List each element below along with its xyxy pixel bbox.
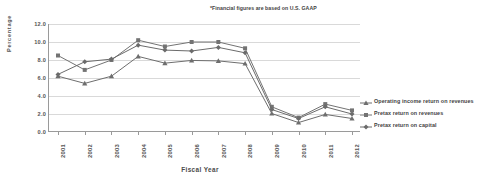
x-axis-tick-label: 2006 [194,144,200,158]
data-point-marker [189,49,194,54]
legend-label: Pretax return on capital [374,122,437,128]
x-axis-tick-label: 2011 [328,144,334,158]
x-axis-tick-labels: 2001200220032004200520062007200820092010… [48,134,360,164]
y-axis-tick-label: 0.0 [2,129,46,135]
x-axis-tick-label: 2003 [114,144,120,158]
x-axis-tick-label: 2004 [141,144,147,158]
x-axis-tick-label: 2010 [301,144,307,158]
x-axis-tick-label: 2005 [167,144,173,158]
data-point-marker [364,124,369,129]
x-axis-tick-label: 2012 [354,144,360,158]
legend-item[interactable]: Pretax return on revenues [360,110,484,119]
x-axis-title: Fiscal Year [0,166,400,173]
legend-item[interactable]: Operating income return on revenues [360,98,484,107]
y-axis-tick-label: 4.0 [2,93,46,99]
x-axis-tick-label: 2001 [60,144,66,158]
y-axis-title: Percentage [6,15,12,52]
legend-marker-icon [360,123,372,131]
data-point-marker [136,38,140,42]
legend-label: Operating income return on revenues [374,98,474,104]
data-point-marker [190,40,194,44]
legend-marker-icon [360,99,372,107]
data-point-marker [364,113,368,117]
x-axis-tick-label: 2007 [221,144,227,158]
y-axis-tick-label: 6.0 [2,75,46,81]
data-point-marker [83,68,87,72]
legend-item[interactable]: Pretax return on capital [360,122,484,131]
data-point-marker [216,45,221,50]
series-plot [48,24,360,132]
data-point-marker [56,72,61,77]
plot-area [48,24,360,132]
data-point-marker [136,54,141,59]
legend-marker-icon [360,111,372,119]
data-point-marker [56,54,60,58]
data-point-marker [136,43,141,48]
data-point-marker [243,46,247,50]
y-axis-tick-label: 2.0 [2,111,46,117]
x-axis-tick-label: 2002 [87,144,93,158]
data-point-marker [216,40,220,44]
series-line [58,45,352,118]
chart-footnote-annotation: *Financial figures are based on U.S. GAA… [210,5,410,11]
legend-label: Pretax return on revenues [374,110,443,116]
chart-legend: Operating income return on revenuesPreta… [360,98,484,134]
chart-container: *Financial figures are based on U.S. GAA… [0,0,484,185]
data-point-marker [323,112,328,117]
x-axis-tick-label: 2008 [247,144,253,158]
y-axis-tick-label: 8.0 [2,57,46,63]
x-axis-tick-label: 2009 [274,144,280,158]
data-point-marker [82,59,87,64]
series-3 [56,43,355,121]
